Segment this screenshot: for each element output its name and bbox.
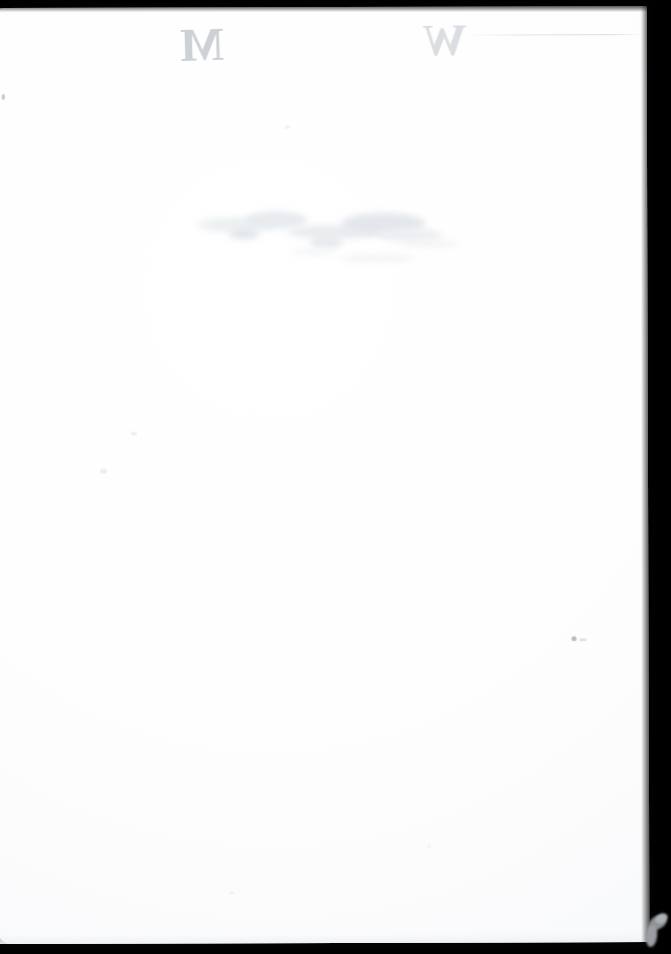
bleed-letter-right-icon: W [422, 18, 467, 63]
smudge-blob [245, 211, 307, 229]
smudge-blob [197, 217, 275, 232]
smudge-tail [401, 241, 457, 247]
smudge-blob [309, 237, 343, 248]
speck-bottom-a [229, 891, 234, 894]
paper-edge-top [0, 6, 647, 14]
smudge-blob [377, 229, 443, 242]
speck-left-upper [2, 94, 5, 100]
bleed-letter-left-icon: M [183, 21, 225, 69]
speck-right-lower [572, 636, 577, 641]
ink-bleed-smudge [191, 203, 453, 270]
smudge-tail [341, 255, 413, 262]
scanned-page-frame: M W [0, 0, 671, 954]
smudge-blob [287, 225, 383, 239]
speck-right-lower-tail [580, 638, 587, 641]
crease-line [467, 34, 645, 36]
speck-mid-left-b [100, 469, 107, 474]
speck-mid-left-a [131, 432, 137, 436]
smudge-blob [341, 213, 425, 235]
paper-tone-vignette [0, 6, 649, 944]
speck-bottom-b [427, 845, 431, 848]
smudge-blob [229, 229, 259, 239]
paper-sheet: M W [0, 6, 649, 944]
smudge-tail [291, 249, 337, 254]
speck-upper-mid [285, 125, 290, 129]
